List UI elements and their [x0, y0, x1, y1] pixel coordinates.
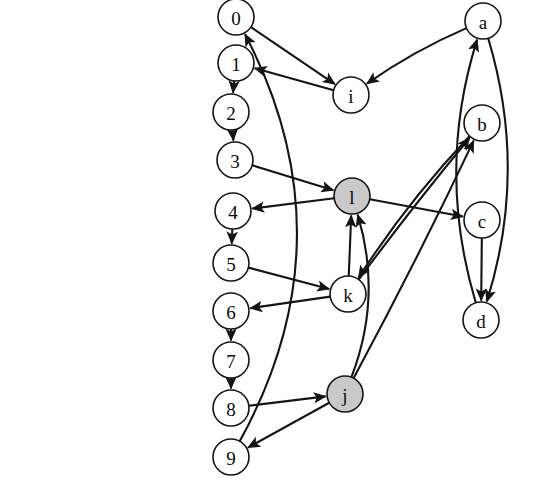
graph-node-c[interactable]: c [464, 202, 500, 238]
graph-edge-5-to-k [248, 268, 329, 289]
graph-node-0[interactable]: 0 [218, 0, 254, 35]
node-label-l: l [349, 187, 354, 208]
graph-node-5[interactable]: 5 [213, 245, 249, 281]
graph-node-8[interactable]: 8 [213, 390, 249, 426]
graph-node-b[interactable]: b [464, 105, 500, 141]
graph-edge-c-to-d [481, 238, 482, 301]
graph-node-2[interactable]: 2 [213, 94, 249, 130]
node-label-8: 8 [226, 399, 236, 420]
node-label-1: 1 [231, 54, 241, 75]
node-label-9: 9 [226, 448, 236, 469]
graph-edge-1-to-2 [233, 81, 234, 93]
graph-edge-j-to-9 [248, 403, 329, 448]
graph-edge-a-to-d [487, 38, 508, 301]
node-label-6: 6 [226, 302, 236, 323]
node-label-0: 0 [231, 8, 241, 29]
graph-edge-9-to-0 [240, 34, 297, 441]
graph-node-l[interactable]: l [334, 178, 370, 214]
graph-node-j[interactable]: j [327, 376, 363, 412]
node-label-k: k [343, 285, 353, 306]
graph-node-9[interactable]: 9 [213, 439, 249, 475]
graph-node-a[interactable]: a [465, 3, 501, 39]
graph-edge-2-to-3 [232, 130, 233, 141]
node-label-c: c [478, 211, 486, 232]
graph-edge-l-to-4 [252, 198, 334, 208]
graph-edge-k-to-b [359, 138, 470, 280]
graph-node-d[interactable]: d [463, 302, 499, 338]
graph-diagram-canvas: 0123456789ilkjabcd [0, 0, 552, 486]
graph-node-3[interactable]: 3 [217, 142, 253, 178]
graph-edge-4-to-5 [232, 229, 233, 244]
node-label-b: b [477, 114, 487, 135]
graph-node-i[interactable]: i [333, 77, 369, 113]
node-label-7: 7 [226, 351, 236, 372]
node-layer: 0123456789ilkjabcd [213, 0, 501, 475]
graph-node-k[interactable]: k [330, 276, 366, 312]
node-label-5: 5 [226, 254, 236, 275]
node-label-i: i [348, 86, 353, 107]
node-label-2: 2 [226, 103, 236, 124]
graph-edge-l-to-c [370, 199, 463, 216]
graph-edge-k-to-l [349, 215, 351, 276]
graph-node-7[interactable]: 7 [213, 342, 249, 378]
edge-layer [231, 27, 508, 447]
graph-edge-a-to-i [367, 28, 467, 84]
node-label-a: a [479, 12, 488, 33]
graph-node-6[interactable]: 6 [213, 293, 249, 329]
graph-svg: 0123456789ilkjabcd [0, 0, 552, 486]
graph-node-4[interactable]: 4 [215, 193, 251, 229]
node-label-d: d [476, 311, 486, 332]
graph-node-1[interactable]: 1 [218, 45, 254, 81]
node-label-4: 4 [228, 202, 238, 223]
node-label-j: j [341, 385, 347, 406]
node-label-3: 3 [230, 151, 240, 172]
